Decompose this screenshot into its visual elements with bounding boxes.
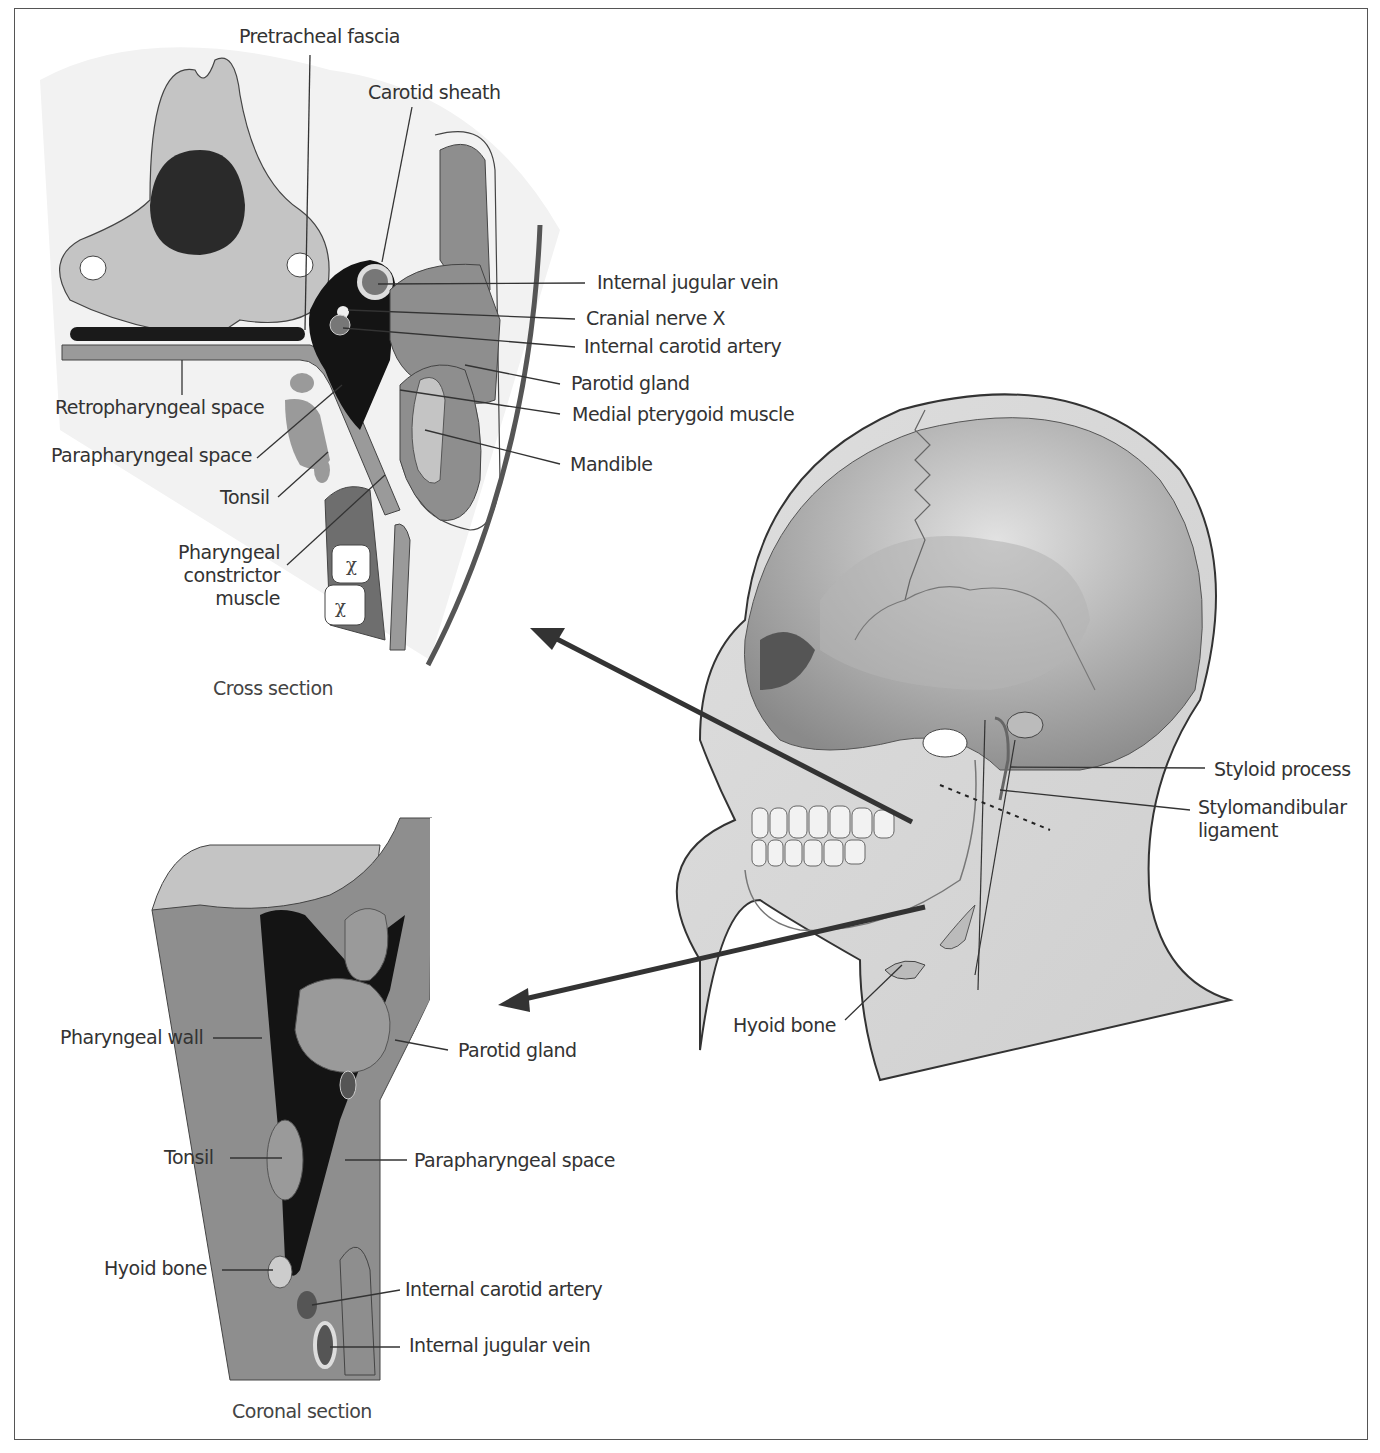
coronal-section-drawing bbox=[152, 818, 448, 1380]
label-hyoid-bone-head: Hyoid bone bbox=[733, 1014, 836, 1037]
label-line-2: ligament bbox=[1198, 819, 1347, 842]
label-internal-carotid-artery: Internal carotid artery bbox=[584, 335, 781, 358]
label-line-1: Stylomandibular bbox=[1198, 796, 1347, 819]
head-lateral-drawing bbox=[677, 394, 1230, 1080]
label-stylomandibular-ligament: Stylomandibular ligament bbox=[1198, 796, 1347, 842]
label-parapharyngeal-space: Parapharyngeal space bbox=[51, 444, 252, 467]
label-mandible: Mandible bbox=[570, 453, 652, 476]
label-tonsil-coronal: Tonsil bbox=[164, 1146, 214, 1169]
label-internal-jugular-vein: Internal jugular vein bbox=[597, 271, 778, 294]
label-tonsil: Tonsil bbox=[220, 486, 270, 509]
cross-section-drawing: χ χ bbox=[40, 47, 585, 665]
label-hyoid-bone-coronal: Hyoid bone bbox=[104, 1257, 207, 1280]
label-pharyngeal-constrictor-muscle: Pharyngeal constrictor muscle bbox=[170, 541, 280, 609]
caption-cross-section: Cross section bbox=[213, 677, 333, 699]
label-styloid-process: Styloid process bbox=[1214, 758, 1351, 781]
label-internal-carotid-artery-coronal: Internal carotid artery bbox=[405, 1278, 602, 1301]
label-pharyngeal-wall: Pharyngeal wall bbox=[60, 1026, 203, 1049]
caption-coronal-section: Coronal section bbox=[232, 1400, 372, 1422]
label-pretracheal-fascia: Pretracheal fascia bbox=[239, 25, 400, 48]
label-retropharyngeal-space: Retropharyngeal space bbox=[55, 396, 264, 419]
label-cranial-nerve-x: Cranial nerve X bbox=[586, 307, 725, 330]
svg-text:χ: χ bbox=[346, 554, 357, 575]
svg-text:χ: χ bbox=[335, 596, 346, 617]
label-medial-pterygoid-muscle: Medial pterygoid muscle bbox=[572, 403, 794, 426]
anatomy-illustration: χ χ bbox=[0, 0, 1380, 1453]
label-carotid-sheath: Carotid sheath bbox=[368, 81, 501, 104]
label-parotid-gland-coronal: Parotid gland bbox=[458, 1039, 577, 1062]
label-line-1: Pharyngeal bbox=[170, 541, 280, 564]
label-parotid-gland: Parotid gland bbox=[571, 372, 690, 395]
label-line-3: muscle bbox=[170, 587, 280, 610]
label-internal-jugular-vein-coronal: Internal jugular vein bbox=[409, 1334, 590, 1357]
label-parapharyngeal-space-coronal: Parapharyngeal space bbox=[414, 1149, 615, 1172]
label-line-2: constrictor bbox=[170, 564, 280, 587]
